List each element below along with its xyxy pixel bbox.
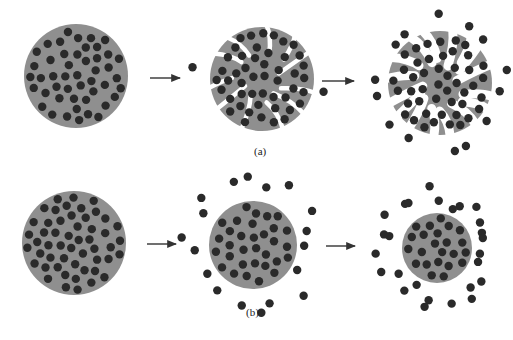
released-particle (404, 199, 412, 207)
particle (40, 228, 48, 236)
particle (64, 85, 72, 93)
released-particle (420, 303, 428, 311)
particle (91, 66, 99, 74)
particle (72, 275, 80, 283)
particle (260, 60, 268, 68)
particle (443, 238, 451, 246)
released-particle (394, 270, 402, 278)
particle (271, 104, 279, 112)
particle (420, 69, 428, 77)
particle (434, 80, 442, 88)
particle (232, 69, 240, 77)
released-particle (213, 286, 221, 294)
particle (412, 222, 420, 230)
particle (460, 88, 468, 96)
released-particle (371, 249, 379, 257)
particle (445, 222, 453, 230)
particle (226, 252, 234, 260)
particle (418, 85, 426, 93)
particle (251, 259, 259, 267)
particle (281, 93, 289, 101)
released-particle (188, 63, 196, 71)
particle (451, 64, 459, 72)
particle (44, 241, 52, 249)
particle (458, 238, 466, 246)
particle (75, 236, 83, 244)
matrix-b-stage-3 (371, 182, 487, 311)
particle (469, 81, 477, 89)
particle (30, 84, 38, 92)
particle (433, 229, 441, 237)
particle (296, 99, 304, 107)
particle (420, 123, 428, 131)
particle (465, 66, 473, 74)
released-particle (435, 197, 443, 205)
particle (225, 241, 233, 249)
particle (430, 118, 438, 126)
particle (260, 72, 268, 80)
particle (226, 107, 234, 115)
released-particle (199, 209, 207, 217)
particle (52, 83, 60, 91)
particle (117, 84, 125, 92)
particle (295, 51, 303, 59)
particle (261, 262, 269, 270)
particle (449, 250, 457, 258)
particle (286, 106, 294, 114)
particle (90, 245, 98, 253)
particle (456, 226, 464, 234)
released-particle (300, 242, 308, 250)
particle (464, 114, 472, 122)
particle (438, 248, 446, 256)
particle (280, 115, 288, 123)
released-particle (476, 218, 484, 226)
particle (412, 44, 420, 52)
particle (51, 229, 59, 237)
particle (270, 237, 278, 245)
particle (82, 57, 90, 65)
released-particle (230, 178, 238, 186)
particle (270, 31, 278, 39)
particle (65, 61, 73, 69)
particle (75, 116, 83, 124)
caption-b: (b) (246, 306, 259, 318)
released-particle (244, 172, 252, 180)
particle (44, 275, 52, 283)
particle (410, 116, 418, 124)
released-particle (299, 292, 307, 300)
particle (431, 239, 439, 247)
particle (300, 74, 308, 82)
particle (452, 79, 460, 87)
particle (274, 212, 282, 220)
particle (439, 52, 447, 60)
particle (37, 74, 45, 82)
particle (289, 84, 297, 92)
particle (231, 43, 239, 51)
particle (61, 72, 69, 80)
released-particle (465, 22, 473, 30)
particle (62, 283, 70, 291)
particle (88, 225, 96, 233)
particle (264, 49, 272, 57)
released-particle (412, 281, 420, 289)
particle (251, 54, 259, 62)
particle (407, 87, 415, 95)
particle (241, 118, 249, 126)
particle (218, 263, 226, 271)
particle (239, 260, 247, 268)
particle (245, 108, 253, 116)
particle (55, 94, 63, 102)
particle (217, 86, 225, 94)
particle (242, 272, 250, 280)
particle (230, 269, 238, 277)
matrix-a-stage-2 (188, 25, 327, 131)
particle (423, 260, 431, 268)
caption-a: (a) (254, 145, 266, 157)
particle (84, 110, 92, 118)
released-particle (262, 183, 270, 191)
particle (423, 40, 431, 48)
matrix-b-stage-2 (177, 172, 316, 317)
particle (101, 101, 109, 109)
particle (238, 90, 246, 98)
particle (257, 113, 265, 121)
